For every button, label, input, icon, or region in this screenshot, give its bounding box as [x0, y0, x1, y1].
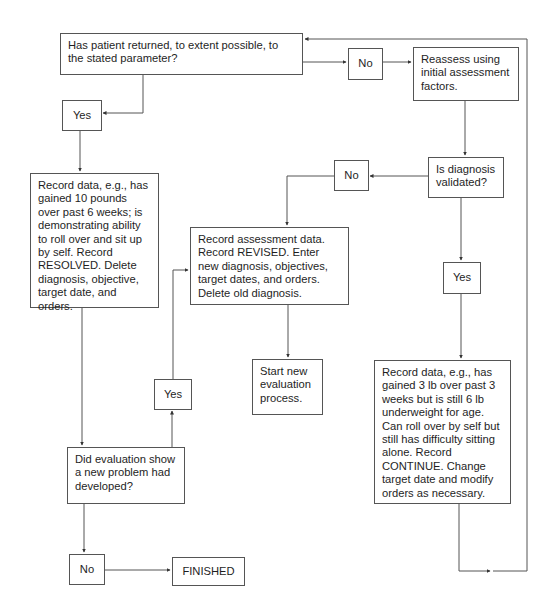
no-label-node: No — [69, 554, 105, 585]
flowchart: Has patient returned, to extent possible… — [0, 0, 555, 611]
record-revised-node: Record assessment data. Record REVISED. … — [190, 227, 349, 305]
record-continue-node: Record data, e.g., has gained 3 lb over … — [374, 360, 511, 504]
yes-label-node: Yes — [443, 262, 481, 294]
start-new-evaluation-node: Start new evaluation process. — [252, 359, 323, 415]
question-new-problem-node: Did evaluation show a new problem had de… — [67, 447, 185, 504]
question-diagnosis-node: Is diagnosis validated? — [428, 157, 504, 198]
question-returned-node: Has patient returned, to extent possible… — [60, 33, 303, 75]
record-resolved-node: Record data, e.g., has gained 10 pounds … — [30, 173, 159, 308]
finished-node: FINISHED — [172, 557, 245, 586]
yes-label-node: Yes — [154, 379, 192, 410]
reassess-node: Reassess using initial assessment factor… — [413, 47, 519, 101]
no-label-node: No — [334, 160, 369, 191]
yes-label-node: Yes — [62, 100, 102, 131]
no-label-node: No — [348, 48, 383, 80]
